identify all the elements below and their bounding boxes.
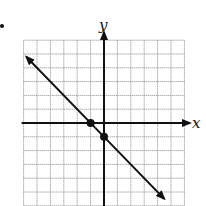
x-axis-label: x xyxy=(192,114,201,132)
plotted-line xyxy=(26,57,164,199)
axes xyxy=(22,32,190,206)
point-marker xyxy=(100,133,108,141)
coordinate-plane: x y xyxy=(0,0,206,206)
point-marker xyxy=(87,119,95,127)
y-axis-label: y xyxy=(98,16,108,34)
